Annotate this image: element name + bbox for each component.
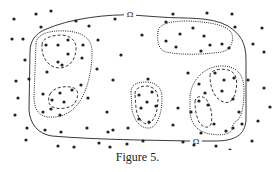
- point-dot: [240, 122, 243, 125]
- point-dot: [14, 79, 17, 82]
- point-dot: [227, 46, 230, 49]
- point-dot: [10, 37, 13, 40]
- omega-label-top: Ω: [127, 10, 134, 19]
- point-dot: [171, 123, 174, 126]
- point-dot: [56, 60, 59, 63]
- point-dot: [171, 12, 174, 15]
- point-dot: [23, 58, 26, 61]
- point-dot: [232, 76, 235, 79]
- point-dot: [58, 91, 61, 94]
- point-dot: [202, 34, 205, 37]
- figure-canvas: Ω Ω: [0, 0, 275, 150]
- point-dot: [181, 140, 184, 143]
- point-dot: [224, 129, 227, 132]
- point-dot: [66, 38, 69, 41]
- point-dot: [260, 26, 263, 29]
- point-dot: [203, 91, 206, 94]
- point-dot: [25, 126, 28, 129]
- point-dot: [189, 110, 192, 113]
- point-dot: [81, 43, 84, 46]
- point-dot: [213, 71, 216, 74]
- point-dot: [49, 9, 52, 12]
- point-dot: [74, 19, 77, 22]
- point-dot: [34, 12, 37, 15]
- point-dot: [237, 110, 240, 113]
- point-dot: [268, 105, 271, 108]
- point-dot: [87, 24, 90, 27]
- point-dot: [58, 113, 61, 116]
- point-dot: [164, 20, 167, 23]
- point-dot: [111, 78, 114, 81]
- point-dot: [233, 25, 236, 28]
- point-dot: [27, 77, 30, 80]
- point-dot: [220, 42, 223, 45]
- point-dot: [137, 93, 140, 96]
- point-dot: [86, 96, 89, 99]
- point-dot: [178, 32, 181, 35]
- point-dot: [164, 39, 167, 42]
- point-dot: [208, 43, 211, 46]
- point-set: [10, 9, 271, 150]
- point-dot: [222, 78, 225, 81]
- point-dot: [12, 17, 15, 20]
- point-dot: [140, 33, 143, 36]
- point-dot: [119, 53, 122, 56]
- point-dot: [126, 126, 129, 129]
- point-dot: [231, 126, 234, 129]
- point-dot: [49, 107, 52, 110]
- point-dot: [154, 104, 157, 107]
- point-dot: [141, 139, 144, 142]
- point-dot: [96, 38, 99, 41]
- point-dot: [111, 128, 114, 131]
- point-dot: [246, 78, 249, 81]
- point-dot: [262, 50, 265, 53]
- point-dot: [56, 144, 59, 147]
- point-dot: [56, 43, 59, 46]
- point-dot: [39, 25, 42, 28]
- point-dot: [205, 11, 208, 14]
- point-dot: [145, 100, 148, 103]
- point-dot: [44, 43, 47, 46]
- point-dot: [256, 119, 259, 122]
- point-dot: [251, 42, 254, 45]
- point-dot: [50, 98, 53, 101]
- point-dot: [41, 92, 44, 95]
- point-dot: [72, 145, 75, 148]
- point-dot: [80, 56, 83, 59]
- point-dot: [60, 63, 63, 66]
- point-dot: [106, 130, 109, 133]
- point-dot: [95, 67, 98, 70]
- point-dot: [231, 97, 234, 100]
- point-dot: [24, 138, 27, 141]
- point-dot: [45, 70, 48, 73]
- omega-boundary: [29, 15, 246, 141]
- point-dot: [147, 120, 150, 123]
- region-top-right: [158, 21, 233, 54]
- point-dot: [62, 100, 65, 103]
- point-dot: [79, 83, 82, 86]
- figure-caption: Figure 5.: [0, 150, 275, 165]
- point-dot: [66, 52, 69, 55]
- point-dot: [97, 141, 100, 144]
- point-dot: [174, 45, 177, 48]
- point-dot: [262, 86, 265, 89]
- point-dot: [85, 126, 88, 129]
- point-dot: [137, 117, 140, 120]
- point-dot: [139, 106, 142, 109]
- point-dot: [212, 122, 215, 125]
- point-dot: [13, 113, 16, 116]
- point-dot: [197, 82, 200, 85]
- point-dot: [230, 12, 233, 15]
- point-dot: [199, 49, 202, 52]
- point-dot: [21, 37, 24, 40]
- point-dot: [192, 143, 195, 146]
- point-dot: [59, 130, 62, 133]
- point-dot: [220, 89, 223, 92]
- point-dot: [186, 71, 189, 74]
- point-dot: [146, 77, 149, 80]
- point-dot: [41, 110, 44, 113]
- point-dot: [70, 88, 73, 91]
- point-dot: [43, 128, 46, 131]
- point-dot: [150, 90, 153, 93]
- point-dot: [214, 144, 217, 147]
